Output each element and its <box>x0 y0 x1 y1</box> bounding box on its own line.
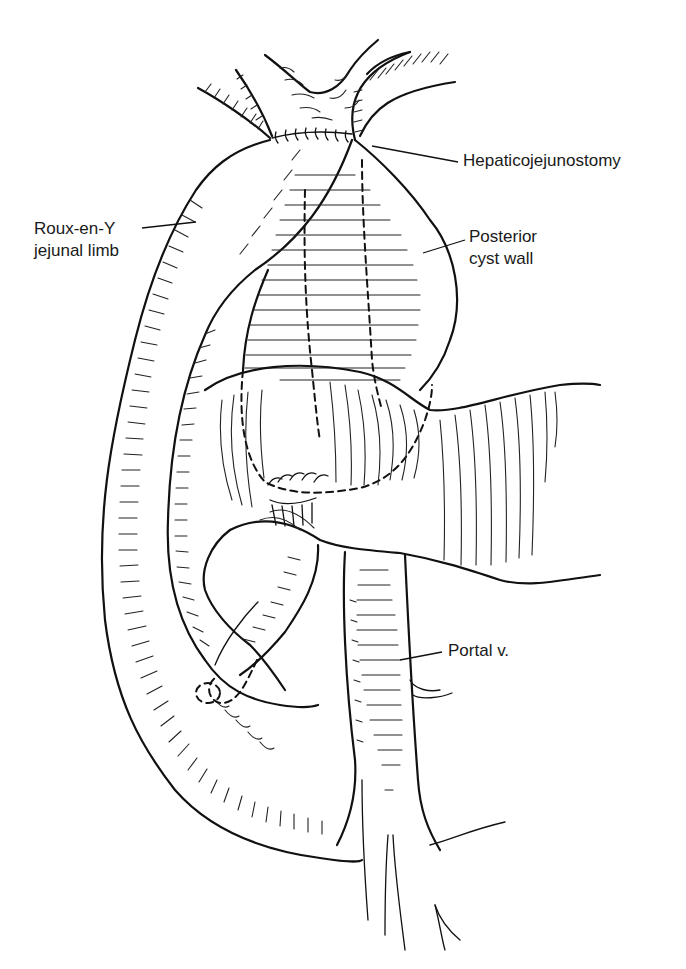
leader-portal-vein <box>400 652 442 660</box>
hepatic-ducts <box>198 40 455 143</box>
leader-hepaticojejunostomy <box>372 146 458 162</box>
label-hepaticojejunostomy: Hepaticojejunostomy <box>463 150 621 171</box>
label-cyst-wall: cyst wall <box>469 248 533 269</box>
roux-en-y-limb <box>102 140 362 861</box>
label-posterior: Posterior <box>469 226 537 247</box>
duodenum <box>205 366 600 584</box>
label-roux-en-y: Roux-en-Y <box>34 218 115 239</box>
posterior-cyst-wall <box>243 140 457 440</box>
anatomy-drawing <box>0 0 686 969</box>
jejunal-loop <box>196 530 318 749</box>
portal-vein <box>337 552 505 950</box>
label-portal-vein: Portal v. <box>448 640 509 661</box>
leader-roux-limb <box>142 222 196 228</box>
label-jejunal-limb: jejunal limb <box>34 240 119 261</box>
figure-canvas: Hepaticojejunostomy Roux-en-Y jejunal li… <box>0 0 686 969</box>
